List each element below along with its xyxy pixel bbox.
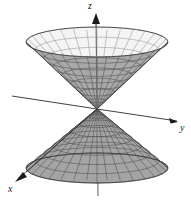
y-axis-label: y xyxy=(180,123,184,133)
y-axis-line-back xyxy=(12,96,97,109)
lower-cone-nappe xyxy=(26,109,168,183)
cone-figure: z y x xyxy=(0,0,191,201)
cone-diagram-canvas xyxy=(0,0,191,201)
z-axis-arrowhead xyxy=(92,13,100,24)
z-axis-label: z xyxy=(88,1,92,11)
x-axis-arrowhead xyxy=(15,172,27,182)
x-axis-label: x xyxy=(8,184,12,194)
